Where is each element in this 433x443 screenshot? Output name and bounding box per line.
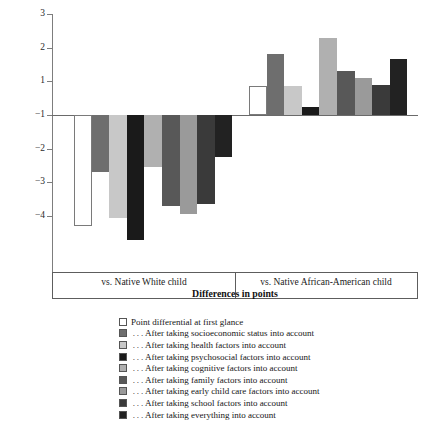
- legend-swatch-icon: [119, 411, 127, 419]
- legend-label: . . . After taking school factors into a…: [131, 398, 288, 408]
- bar: [372, 85, 390, 115]
- category-label-african-american: vs. Native African-American child: [235, 277, 417, 288]
- bar: [337, 71, 355, 115]
- legend-item: . . . After taking school factors into a…: [119, 397, 419, 409]
- bar: [92, 115, 110, 172]
- legend-label: . . . After taking cognitive factors int…: [131, 363, 298, 373]
- bar: [215, 115, 233, 157]
- legend-label: . . . After taking family factors into a…: [131, 375, 288, 385]
- bar: [355, 78, 373, 115]
- y-tick-label: 2: [40, 43, 45, 53]
- bar: [180, 115, 198, 214]
- legend-item: . . . After taking socioeconomic status …: [119, 328, 419, 340]
- legend-item: . . . After taking family factors into a…: [119, 374, 419, 386]
- y-tick: [47, 81, 52, 82]
- y-tick-label: 3: [40, 9, 45, 19]
- legend-swatch-icon: [119, 329, 127, 337]
- legend-label: . . . After taking early child care fact…: [131, 386, 320, 396]
- y-tick-label: −2: [35, 144, 45, 154]
- y-axis-line: [52, 14, 53, 270]
- plot-area: 321−1−2−3−4: [52, 14, 418, 270]
- bar: [109, 115, 127, 218]
- bar-chart-figure: 321−1−2−3−4 vs. Native White child vs. N…: [0, 0, 433, 443]
- bar: [249, 86, 267, 115]
- y-tick-label: 1: [40, 76, 45, 86]
- category-label-white: vs. Native White child: [53, 277, 235, 288]
- bar: [197, 115, 215, 204]
- y-tick-label: −3: [35, 177, 45, 187]
- bar: [162, 115, 180, 206]
- legend-item: . . . After taking everything into accou…: [119, 409, 419, 421]
- legend-swatch-icon: [119, 376, 127, 384]
- chart-legend: Point differential at first glance . . .…: [119, 316, 419, 420]
- y-tick-label: −1: [35, 110, 45, 120]
- y-tick-label: −4: [35, 211, 45, 221]
- y-tick: [47, 48, 52, 49]
- legend-swatch-icon: [119, 318, 127, 326]
- legend-swatch-icon: [119, 364, 127, 372]
- legend-swatch-icon: [119, 387, 127, 395]
- y-tick: [47, 149, 52, 150]
- legend-label: . . . After taking everything into accou…: [131, 410, 276, 420]
- bar: [144, 115, 162, 167]
- legend-item: Point differential at first glance: [119, 316, 419, 328]
- legend-item: . . . After taking early child care fact…: [119, 386, 419, 398]
- bar: [284, 86, 302, 115]
- legend-label: . . . After taking psychosocial factors …: [131, 352, 311, 362]
- legend-item: . . . After taking psychosocial factors …: [119, 351, 419, 363]
- y-tick: [47, 216, 52, 217]
- legend-label: . . . After taking health factors into a…: [131, 340, 286, 350]
- bar: [74, 115, 92, 226]
- y-tick: [47, 14, 52, 15]
- bar: [127, 115, 145, 240]
- bar: [267, 54, 285, 115]
- legend-item: . . . After taking health factors into a…: [119, 339, 419, 351]
- x-axis-title: Differences in points: [52, 288, 418, 299]
- legend-label: Point differential at first glance: [131, 317, 243, 327]
- bar: [302, 107, 320, 115]
- legend-item: . . . After taking cognitive factors int…: [119, 362, 419, 374]
- legend-label: . . . After taking socioeconomic status …: [131, 328, 314, 338]
- legend-swatch-icon: [119, 399, 127, 407]
- y-tick: [47, 182, 52, 183]
- bar: [390, 59, 408, 115]
- legend-swatch-icon: [119, 353, 127, 361]
- legend-swatch-icon: [119, 341, 127, 349]
- bar: [319, 38, 337, 115]
